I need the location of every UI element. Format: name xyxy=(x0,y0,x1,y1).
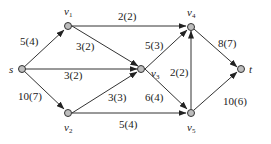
edge-label-v5-t: 10(6) xyxy=(223,95,247,108)
edge-label-v5-v4: 2(2) xyxy=(170,66,189,79)
edge-s-v2 xyxy=(22,69,64,109)
edge-label-v4-t: 8(7) xyxy=(218,37,237,50)
edge-label-v2-v5: 5(4) xyxy=(119,118,138,131)
flow-network-diagram: 5(4) 3(2) 10(7) 2(2) 3(2) 3(3) 5(4) 5(3)… xyxy=(0,0,271,144)
node-t xyxy=(238,66,245,73)
node-label-v4: v4 xyxy=(187,6,196,20)
node-v4 xyxy=(188,24,195,31)
edge-label-v3-v5: 6(4) xyxy=(145,91,164,104)
edge-label-v3-v4: 5(3) xyxy=(145,39,164,52)
node-label-v2: v2 xyxy=(64,121,73,135)
node-v3 xyxy=(138,66,145,73)
node-v2 xyxy=(65,110,72,117)
node-v1 xyxy=(65,23,72,30)
node-s xyxy=(19,66,26,73)
edge-label-v1-v4: 2(2) xyxy=(118,10,137,23)
edge-label-v1-v3: 3(2) xyxy=(76,40,95,53)
edge-label-s-v2: 10(7) xyxy=(18,90,42,103)
edge-label-v2-v3: 3(3) xyxy=(108,91,127,104)
edge-label-s-v1: 5(4) xyxy=(20,35,39,48)
edge-label-s-v3: 3(2) xyxy=(64,69,83,82)
node-label-v1: v1 xyxy=(64,5,73,19)
node-v5 xyxy=(188,110,195,117)
node-label-v3: v3 xyxy=(151,67,160,81)
node-label-v5: v5 xyxy=(187,121,196,135)
node-label-s: s xyxy=(9,63,13,75)
node-label-t: t xyxy=(249,63,253,75)
